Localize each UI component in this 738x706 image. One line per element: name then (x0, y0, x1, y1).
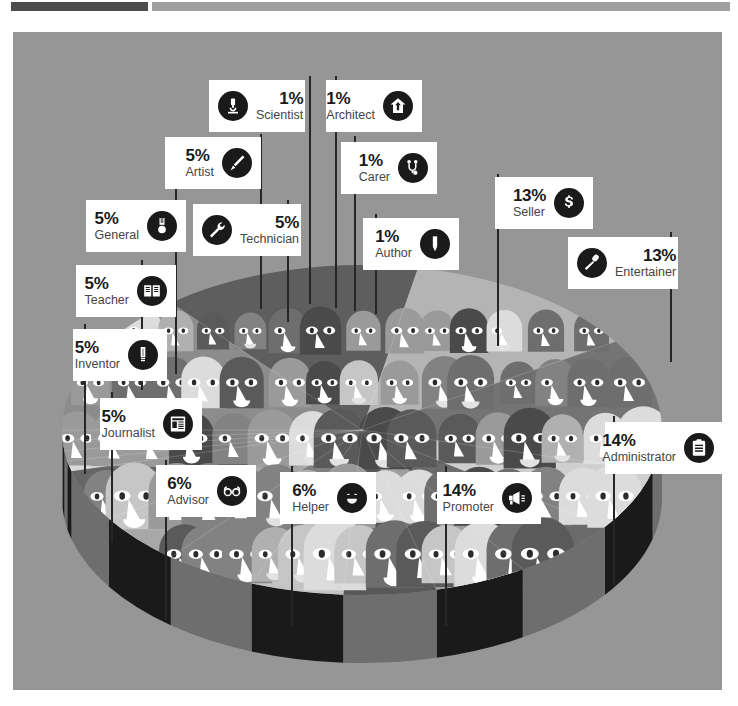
face-figure (487, 310, 523, 352)
callout-percent-helper: 6% (292, 482, 316, 500)
callout-name-author: Author (375, 247, 412, 260)
callout-text-technician: 5%Technician (240, 214, 299, 247)
callout-text-helper: 6%Helper (292, 482, 329, 515)
house-arrow-icon (383, 91, 413, 121)
callout-name-helper: Helper (292, 501, 329, 514)
callout-technician[interactable]: 5%Technician (193, 204, 301, 256)
callout-percent-scientist: 1% (279, 90, 303, 108)
callout-entertainer[interactable]: 13%Entertainer (568, 237, 678, 289)
callout-author[interactable]: 1%Author (363, 218, 459, 270)
chart-panel: 1%Scientist1%Architect5%Artist1%Carer13%… (13, 32, 722, 690)
callout-percent-seller: 13% (513, 187, 546, 205)
callout-architect[interactable]: 1%Architect (326, 80, 422, 132)
callout-advisor[interactable]: 6%Advisor (156, 465, 256, 517)
callout-percent-advisor: 6% (167, 475, 191, 493)
callout-inventor[interactable]: 5%Inventor (73, 329, 167, 381)
paintbrush-icon (222, 148, 252, 178)
callout-name-architect: Architect (326, 109, 375, 122)
leader-line-scientist (309, 76, 311, 304)
callout-scientist[interactable]: 1%Scientist (209, 80, 305, 132)
callout-percent-promoter: 14% (443, 482, 476, 500)
callout-text-architect: 1%Architect (326, 90, 375, 123)
book-icon (137, 276, 167, 306)
face-figure (300, 306, 341, 354)
face-figure (381, 360, 419, 404)
face-figure (528, 310, 564, 352)
callout-text-general: 5%General (95, 210, 139, 243)
callout-text-seller: 13%Seller (513, 187, 546, 220)
callout-text-carer: 1%Carer (359, 152, 390, 185)
callout-text-inventor: 5%Inventor (75, 339, 120, 372)
callout-journalist[interactable]: 5%Journalist (100, 398, 202, 450)
callout-carer[interactable]: 1%Carer (341, 142, 437, 194)
callout-promoter[interactable]: 14%Promoter (437, 472, 541, 524)
callout-name-advisor: Advisor (167, 494, 209, 507)
infographic-root: { "header": { "bar_dark_color": "#4d4d4d… (0, 0, 738, 706)
callout-percent-inventor: 5% (75, 339, 99, 357)
face-figure (306, 361, 343, 404)
callout-name-administrator: Administrator (602, 451, 676, 464)
callout-percent-journalist: 5% (102, 408, 126, 426)
callout-name-entertainer: Entertainer (615, 266, 676, 279)
face-figure (447, 355, 494, 410)
callout-percent-architect: 1% (326, 90, 350, 108)
face-figure (567, 358, 609, 407)
callout-name-scientist: Scientist (256, 109, 303, 122)
face-figure (500, 361, 536, 404)
lightbulb-icon (128, 340, 158, 370)
callout-name-artist: Artist (186, 166, 214, 179)
callout-text-scientist: 1%Scientist (256, 90, 303, 123)
callout-text-promoter: 14%Promoter (443, 482, 494, 515)
callout-name-journalist: Journalist (102, 427, 156, 440)
megaphone-icon (502, 483, 532, 513)
face-figure (346, 311, 380, 351)
callout-helper[interactable]: 6%Helper (280, 472, 376, 524)
callout-seller[interactable]: 13%Seller (495, 177, 593, 229)
callout-teacher[interactable]: 5%Teacher (76, 265, 176, 317)
face-figure (420, 310, 455, 351)
medal-icon (147, 211, 177, 241)
callout-name-technician: Technician (240, 233, 299, 246)
callout-percent-artist: 5% (186, 147, 210, 165)
face-figure (542, 414, 583, 462)
callout-percent-entertainer: 13% (643, 247, 676, 265)
callout-text-teacher: 5%Teacher (85, 275, 129, 308)
callout-text-journalist: 5%Journalist (102, 408, 156, 441)
face-figure (220, 357, 264, 408)
callout-name-carer: Carer (359, 171, 390, 184)
callout-percent-administrator: 14% (602, 432, 635, 450)
callout-text-advisor: 6%Advisor (167, 475, 209, 508)
callout-text-artist: 5%Artist (186, 147, 214, 180)
callout-percent-carer: 1% (359, 152, 383, 170)
callout-administrator[interactable]: 14%Administrator (605, 422, 722, 474)
callout-name-seller: Seller (513, 206, 545, 219)
callout-percent-author: 1% (375, 228, 399, 246)
callout-artist[interactable]: 5%Artist (165, 137, 261, 189)
callout-name-general: General (95, 229, 139, 242)
callout-general[interactable]: 5%General (86, 200, 186, 252)
face-figure (340, 360, 378, 405)
face-figure (438, 414, 480, 464)
face-figure (450, 308, 488, 353)
callout-percent-technician: 5% (275, 214, 299, 232)
callout-percent-general: 5% (95, 210, 119, 228)
face-figure (574, 310, 609, 351)
pencil-icon (420, 229, 450, 259)
microscope-icon (218, 91, 248, 121)
callout-text-administrator: 14%Administrator (602, 432, 676, 465)
newspaper-icon (163, 409, 193, 439)
microphone-icon (577, 248, 607, 278)
smiley-icon (337, 483, 367, 513)
top-bar-dark (11, 2, 148, 11)
wrench-icon (202, 215, 232, 245)
callout-name-promoter: Promoter (443, 501, 494, 514)
stethoscope-icon (398, 153, 428, 183)
dollar-icon (554, 188, 584, 218)
callout-text-entertainer: 13%Entertainer (615, 247, 676, 280)
face-figure (234, 312, 266, 349)
face-figure (607, 357, 651, 408)
callout-name-inventor: Inventor (75, 358, 120, 371)
glasses-icon (217, 476, 247, 506)
callout-text-author: 1%Author (375, 228, 412, 261)
callout-percent-teacher: 5% (85, 275, 109, 293)
